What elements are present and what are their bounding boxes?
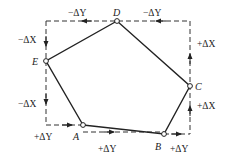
- label-b: B: [155, 141, 161, 152]
- vertices: [44, 19, 193, 137]
- point-b: [162, 132, 167, 137]
- point-a: [81, 123, 86, 128]
- label-ab-dy: +ΔY: [98, 144, 116, 154]
- label-ea-dy: +ΔY: [34, 132, 52, 142]
- label-ae-dx: −ΔX: [18, 99, 36, 109]
- dashed-guides: [46, 21, 190, 134]
- label-a: A: [72, 131, 80, 142]
- point-c: [188, 84, 193, 89]
- label-c: C: [195, 81, 202, 92]
- label-ed-dy: −ΔY: [68, 8, 86, 18]
- label-e: E: [31, 56, 38, 67]
- point-e: [44, 59, 49, 64]
- polygon-edges: [46, 21, 190, 134]
- label-d: D: [112, 7, 121, 18]
- label-b-dy: +ΔY: [170, 144, 188, 154]
- label-e-dx: −ΔX: [18, 35, 36, 45]
- point-d: [115, 19, 120, 24]
- label-dc-dy: −ΔY: [143, 8, 161, 18]
- traverse-diagram: A B C D E −ΔY −ΔY +ΔX +ΔX −ΔX −ΔX +ΔY +Δ…: [0, 0, 228, 161]
- increment-arrows: [46, 21, 190, 134]
- label-cd-dx: +ΔX: [197, 39, 215, 49]
- label-bc-dx: +ΔX: [197, 101, 215, 111]
